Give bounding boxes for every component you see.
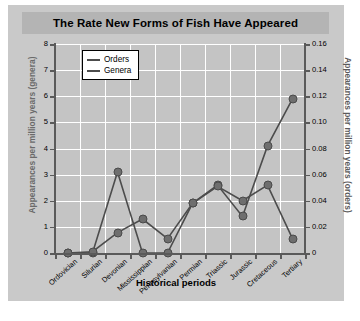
chart-figure: The Rate New Forms of Fish Have Appeared… <box>8 5 344 301</box>
left-axis-tick-label: 5 <box>44 119 48 127</box>
chart-legend: Orders Genera <box>82 50 139 80</box>
data-point-genera <box>138 215 147 224</box>
left-axis-tick <box>50 70 54 72</box>
left-axis-tick <box>50 201 54 203</box>
left-axis-title: Appearances per million years (genera) <box>27 35 37 235</box>
x-axis-title: Historical periods <box>8 277 344 288</box>
x-axis-tick <box>255 255 257 259</box>
left-axis-tick <box>50 96 54 98</box>
x-axis-tick <box>205 255 207 259</box>
left-axis-tick-label: 1 <box>44 223 48 231</box>
right-axis-tick <box>306 70 310 72</box>
data-point-orders <box>288 94 297 103</box>
data-point-genera <box>113 228 122 237</box>
data-point-genera <box>88 247 97 256</box>
legend-label-genera: Genera <box>104 66 131 75</box>
data-point-genera <box>213 182 222 191</box>
series-line-orders <box>68 99 293 253</box>
right-axis-tick-label: 0.12 <box>312 92 327 100</box>
data-point-genera <box>188 199 197 208</box>
left-axis-tick-label: 3 <box>44 171 48 179</box>
x-axis-tick <box>305 255 307 259</box>
x-axis-tick <box>130 255 132 259</box>
right-axis-tick-label: 0.08 <box>312 145 327 153</box>
left-axis-tick <box>50 44 54 46</box>
left-axis-tick <box>50 175 54 177</box>
data-point-genera <box>263 181 272 190</box>
x-axis-tick <box>230 255 232 259</box>
right-axis-title: Appearances per million years (orders) <box>343 35 353 235</box>
x-axis-tick <box>280 255 282 259</box>
x-axis-tick <box>55 255 57 259</box>
right-axis-tick-label: 0.02 <box>312 223 327 231</box>
right-axis-tick-label: 0 <box>312 249 316 257</box>
legend-swatch-genera <box>87 70 100 72</box>
right-axis-tick <box>306 227 310 229</box>
right-axis-tick-label: 0.16 <box>312 40 327 48</box>
legend-label-orders: Orders <box>104 55 129 64</box>
left-axis-tick <box>50 253 54 255</box>
data-point-orders <box>263 141 272 150</box>
left-axis-spine <box>54 43 56 254</box>
right-axis-tick <box>306 122 310 124</box>
data-point-orders <box>238 212 247 221</box>
data-point-orders <box>113 168 122 177</box>
data-point-genera <box>288 234 297 243</box>
right-axis-tick <box>306 175 310 177</box>
left-axis-tick-label: 7 <box>44 66 48 74</box>
data-point-genera <box>163 234 172 243</box>
right-axis-tick-label: 0.14 <box>312 66 327 74</box>
series-line-genera <box>68 185 293 253</box>
left-axis-tick-label: 6 <box>44 92 48 100</box>
left-axis-tick-label: 8 <box>44 40 48 48</box>
left-axis-tick-label: 0 <box>44 249 48 257</box>
left-axis-tick <box>50 149 54 151</box>
series-lines <box>8 5 344 301</box>
x-axis-tick <box>80 255 82 259</box>
left-axis-tick-label: 4 <box>44 145 48 153</box>
data-point-genera <box>238 196 247 205</box>
right-axis-tick <box>306 253 310 255</box>
right-axis-tick-labels: 00.020.040.060.080.100.120.140.16 <box>312 5 338 301</box>
x-axis-tick <box>105 255 107 259</box>
legend-item-genera[interactable]: Genera <box>87 65 131 76</box>
legend-item-orders[interactable]: Orders <box>87 54 131 65</box>
right-axis-tick-label: 0.04 <box>312 197 327 205</box>
left-axis-tick-label: 2 <box>44 197 48 205</box>
left-axis-tick <box>50 227 54 229</box>
right-axis-tick <box>306 96 310 98</box>
x-axis-tick <box>180 255 182 259</box>
right-axis-tick-label: 0.10 <box>312 119 327 127</box>
right-axis-tick <box>306 44 310 46</box>
right-axis-tick-label: 0.06 <box>312 171 327 179</box>
legend-swatch-orders <box>87 59 100 61</box>
right-axis-tick <box>306 149 310 151</box>
right-axis-tick <box>306 201 310 203</box>
x-axis-tick <box>155 255 157 259</box>
left-axis-tick <box>50 122 54 124</box>
